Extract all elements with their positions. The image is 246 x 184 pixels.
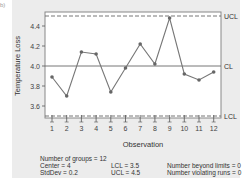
stat-beyond-limits: Number beyond limits = 0 bbox=[167, 162, 241, 169]
x-tick-label: 7 bbox=[138, 125, 142, 132]
cl-label: CL bbox=[224, 63, 233, 70]
x-tick-label: 10 bbox=[180, 125, 188, 132]
x-tick-label: 5 bbox=[109, 125, 113, 132]
data-point bbox=[50, 75, 54, 79]
x-tick-label: 3 bbox=[79, 125, 83, 132]
y-tick-label: 3.8 bbox=[30, 83, 40, 90]
data-point bbox=[124, 66, 128, 70]
x-tick-label: 12 bbox=[210, 125, 218, 132]
data-point bbox=[138, 42, 142, 46]
lcl-label: LCL bbox=[224, 113, 237, 120]
x-tick-label: 11 bbox=[195, 125, 202, 132]
data-point bbox=[183, 72, 187, 76]
x-tick-label: 4 bbox=[94, 125, 98, 132]
x-tick-label: 8 bbox=[153, 125, 157, 132]
y-tick-label: 4.0 bbox=[30, 63, 40, 70]
x-tick-label: 1 bbox=[50, 125, 54, 132]
stat-violating-runs: Number violating runs = 0 bbox=[167, 169, 241, 176]
data-point bbox=[109, 90, 113, 94]
data-point bbox=[168, 16, 172, 20]
data-point bbox=[94, 52, 98, 56]
control-chart: UCLCLLCL3.63.84.04.24.4123456789101112Ob… bbox=[0, 0, 246, 184]
x-tick-label: 9 bbox=[168, 125, 172, 132]
data-point bbox=[212, 70, 216, 74]
stat-ucl: UCL = 4.5 bbox=[111, 169, 140, 176]
x-axis-label: Observation bbox=[123, 140, 163, 149]
y-axis-label: Temperature Loss bbox=[13, 36, 22, 96]
plot-area bbox=[45, 12, 221, 118]
data-point bbox=[65, 94, 69, 98]
stat-groups: Number of groups = 12 bbox=[40, 155, 107, 162]
ucl-label: UCL bbox=[224, 13, 238, 20]
y-tick-label: 4.4 bbox=[30, 23, 40, 30]
y-tick-label: 3.6 bbox=[30, 103, 40, 110]
x-tick-label: 2 bbox=[65, 125, 69, 132]
data-point bbox=[153, 62, 157, 66]
y-tick-label: 4.2 bbox=[30, 43, 40, 50]
data-point bbox=[80, 50, 84, 54]
stat-lcl: LCL = 3.5 bbox=[111, 162, 139, 169]
stat-stddev: StdDev = 0.2 bbox=[40, 169, 78, 176]
data-point bbox=[197, 78, 201, 82]
x-tick-label: 6 bbox=[124, 125, 128, 132]
stat-center: Center = 4 bbox=[40, 162, 71, 169]
